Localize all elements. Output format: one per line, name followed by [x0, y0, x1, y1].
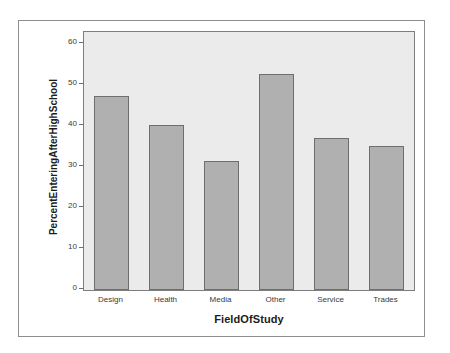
y-axis: 0102030405060: [19, 21, 83, 292]
x-axis: DesignHealthMediaOtherServiceTrades: [83, 292, 415, 312]
scan-edge-artifact: [12, 0, 242, 9]
plot-area: [83, 31, 415, 291]
y-tick-label: 10: [68, 242, 77, 252]
x-axis-label: Design: [83, 295, 138, 304]
y-tick-label: 20: [68, 201, 77, 211]
y-tick-label: 30: [68, 160, 77, 170]
bar-media: [204, 161, 239, 290]
x-axis-label: Other: [248, 295, 303, 304]
x-axis-label: Trades: [358, 295, 413, 304]
figure-frame: PercentEnteringAfterHighSchool 010203040…: [18, 20, 425, 337]
bars-layer: [84, 32, 414, 290]
bar-trades: [369, 146, 404, 290]
bar-design: [94, 96, 129, 290]
y-tick-label: 40: [68, 119, 77, 129]
bar-health: [149, 125, 184, 290]
y-tick-label: 50: [68, 78, 77, 88]
y-tick-label: 60: [68, 37, 77, 47]
x-axis-title: FieldOfStudy: [83, 313, 415, 325]
x-axis-label: Health: [138, 295, 193, 304]
x-axis-label: Media: [193, 295, 248, 304]
x-axis-label: Service: [303, 295, 358, 304]
y-tick-label: 0: [73, 283, 77, 293]
bar-service: [314, 138, 349, 290]
bar-other: [259, 74, 294, 290]
